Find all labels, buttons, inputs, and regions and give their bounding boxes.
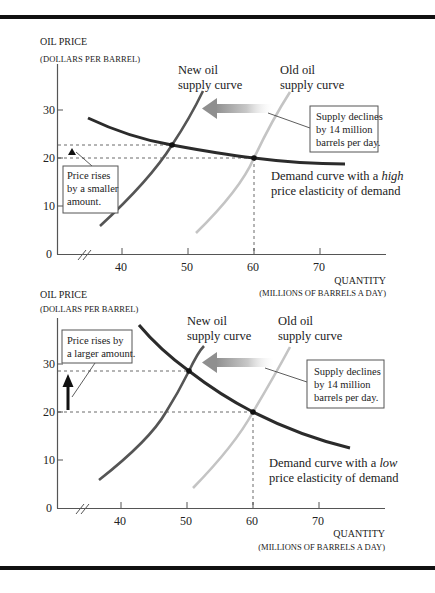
y-tick-20: 20 bbox=[43, 405, 55, 419]
y-tick-0: 0 bbox=[46, 501, 52, 515]
new-equilibrium-point bbox=[186, 368, 192, 374]
new-supply-curve bbox=[99, 346, 204, 480]
x-axis-subtitle: (millions of barrels a day) bbox=[259, 288, 386, 298]
new-supply-label-line2: supply curve bbox=[187, 329, 252, 343]
y-axis-title: Oil price bbox=[40, 36, 87, 47]
large-up-arrow-icon bbox=[63, 374, 74, 410]
x-axis-title: Quantity bbox=[334, 275, 386, 286]
x-tick-40: 40 bbox=[115, 260, 127, 274]
svg-text:a larger amount.: a larger amount. bbox=[67, 348, 135, 359]
x-axis-title: Quantity bbox=[333, 528, 385, 539]
x-ticks bbox=[121, 502, 319, 508]
x-tick-50: 50 bbox=[181, 260, 193, 274]
y-axis-title-main: Oil price bbox=[40, 36, 87, 47]
y-tick-30: 30 bbox=[43, 103, 55, 117]
supply-shift-arrow-icon bbox=[202, 352, 274, 373]
price-rise-callout: Price rises by a larger amount. bbox=[62, 330, 135, 363]
svg-text:by a smaller: by a smaller bbox=[67, 183, 119, 194]
price-box-leader bbox=[76, 152, 92, 166]
x-tick-70: 70 bbox=[312, 514, 324, 528]
y-tick-10: 10 bbox=[43, 453, 55, 467]
svg-text:amount.: amount. bbox=[67, 196, 101, 207]
x-tick-50: 50 bbox=[180, 514, 192, 528]
svg-text:barrels per day.: barrels per day. bbox=[314, 392, 378, 403]
y-axis-title: Oil price bbox=[40, 289, 87, 300]
svg-text:Supply declines: Supply declines bbox=[314, 366, 381, 377]
chart-high-elasticity: Oil price (dollars per barrel) 30 20 10 … bbox=[40, 36, 404, 298]
old-supply-label-line2: supply curve bbox=[280, 78, 345, 92]
x-axis-subtitle: (millions of barrels a day) bbox=[258, 542, 385, 552]
x-tick-60: 60 bbox=[246, 514, 258, 528]
demand-label-line1: Demand curve with a low bbox=[269, 456, 398, 470]
supply-decline-callout: Supply declines by 14 million barrels pe… bbox=[307, 360, 384, 408]
svg-text:Price rises by: Price rises by bbox=[67, 335, 124, 346]
price-box-leader bbox=[72, 363, 95, 397]
y-tick-0: 0 bbox=[46, 247, 52, 261]
figure-canvas: Oil price (dollars per barrel) 30 20 10 … bbox=[0, 0, 435, 593]
old-equilibrium-point bbox=[251, 155, 257, 161]
y-tick-20: 20 bbox=[43, 151, 55, 165]
new-equilibrium-point bbox=[169, 142, 175, 148]
svg-text:by 14 million: by 14 million bbox=[314, 379, 371, 390]
new-supply-label-line1: New oil bbox=[187, 314, 227, 328]
demand-label-line2: price elasticity of demand bbox=[269, 471, 399, 485]
demand-label-line2: price elasticity of demand bbox=[271, 184, 401, 198]
svg-text:Supply declines: Supply declines bbox=[316, 111, 383, 122]
svg-text:by 14 million: by 14 million bbox=[316, 124, 373, 135]
y-tick-10: 10 bbox=[43, 199, 55, 213]
x-tick-40: 40 bbox=[114, 514, 126, 528]
supply-decline-callout: Supply declines by 14 million barrels pe… bbox=[310, 106, 383, 152]
y-tick-30: 30 bbox=[43, 357, 55, 371]
old-supply-label-line2: supply curve bbox=[278, 329, 343, 343]
price-rise-callout: Price rises by a smaller amount. bbox=[63, 166, 119, 213]
y-axis-subtitle: (dollars per barrel) bbox=[40, 304, 138, 314]
new-supply-label-line2: supply curve bbox=[178, 78, 243, 92]
old-equilibrium-point bbox=[250, 409, 256, 415]
x-ticks bbox=[122, 248, 320, 254]
demand-curve bbox=[88, 118, 345, 164]
dashed-guides bbox=[58, 371, 253, 508]
y-axis-subtitle: (dollars per barrel) bbox=[40, 54, 140, 64]
svg-text:Price rises: Price rises bbox=[67, 170, 110, 181]
x-tick-70: 70 bbox=[313, 260, 325, 274]
chart-low-elasticity: Oil price (dollars per barrel) 30 20 10 … bbox=[40, 289, 399, 552]
supply-shift-arrow-icon bbox=[202, 98, 273, 119]
demand-label-line1: Demand curve with a high bbox=[271, 169, 404, 183]
new-supply-label-line1: New oil bbox=[178, 63, 218, 77]
old-supply-label-line1: Old oil bbox=[280, 63, 316, 77]
small-up-arrow-icon bbox=[68, 148, 76, 155]
svg-text:barrels per day.: barrels per day. bbox=[316, 137, 380, 148]
x-tick-60: 60 bbox=[247, 260, 259, 274]
old-supply-label-line1: Old oil bbox=[278, 314, 314, 328]
